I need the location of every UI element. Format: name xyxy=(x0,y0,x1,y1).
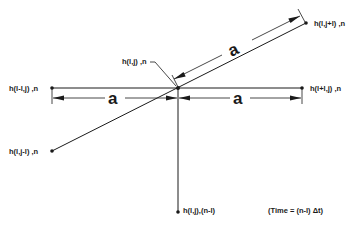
node-left xyxy=(50,86,54,90)
arrowhead-icon xyxy=(53,96,64,101)
dimension-right: a xyxy=(179,89,301,108)
time-note: (Time = (n-l) Δt) xyxy=(268,206,324,215)
label-lower-left: h(l,j-l) ,n xyxy=(9,147,39,156)
label-center: h(l,j) ,n xyxy=(122,57,147,66)
center-label-leader xyxy=(155,62,176,86)
dimension-left: a xyxy=(53,89,177,108)
node-upper-right xyxy=(304,21,308,25)
stencil-diagram: a a a h(l,j) ,n h(l-l,j) ,n h(l+l,j) ,n … xyxy=(0,0,355,227)
label-bottom: h(l,j),(n-l) xyxy=(183,206,216,215)
node-center xyxy=(176,86,180,90)
dimension-diagonal: a xyxy=(172,9,305,87)
label-left: h(l-l,j) ,n xyxy=(9,84,39,93)
dimension-label-left: a xyxy=(108,89,118,108)
node-lower-left xyxy=(50,149,54,153)
arrowhead-icon xyxy=(174,72,186,79)
dimension-label-right: a xyxy=(233,89,243,108)
node-right xyxy=(300,86,304,90)
arrowhead-icon xyxy=(166,96,177,101)
arrowhead-icon xyxy=(288,16,300,23)
dimension-label-diagonal: a xyxy=(225,39,242,60)
label-right: h(l+l,j) ,n xyxy=(310,84,341,93)
arrowhead-icon xyxy=(179,96,190,101)
label-upper-right: h(l,j+l) ,n xyxy=(314,19,345,28)
arrowhead-icon xyxy=(290,96,301,101)
node-bottom xyxy=(176,210,180,214)
